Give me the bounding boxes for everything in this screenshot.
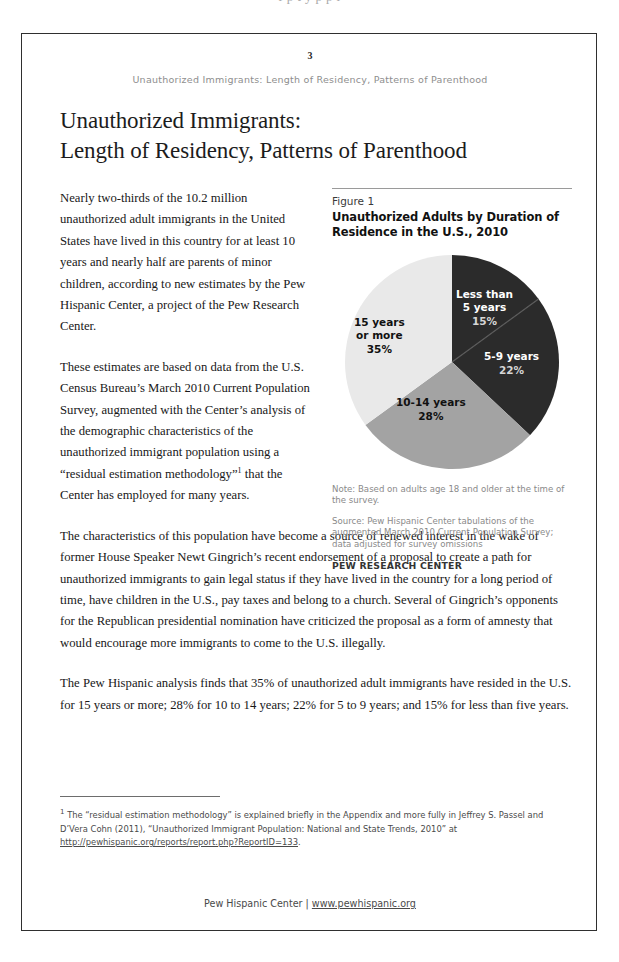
- figure-source: Source: Pew Hispanic Center tabulations …: [332, 516, 570, 550]
- page-footer: Pew Hispanic Center | www.pewhispanic.or…: [22, 898, 598, 909]
- pie-value-lt5: 15%: [456, 315, 513, 328]
- figure-title-line-1: Unauthorized Adults by Duration of: [332, 210, 559, 224]
- body-copy-upper: Nearly two-thirds of the 10.2 million un…: [60, 188, 315, 507]
- figure-number: Figure 1: [332, 195, 572, 207]
- pie-label-10-14-years: 10-14 years 28%: [396, 396, 466, 423]
- footer-separator: |: [303, 898, 312, 909]
- footnote-1: 1 The “residual estimation methodology” …: [60, 809, 572, 850]
- pie-value-15: 35%: [354, 343, 405, 356]
- paragraph-2-part-1: These estimates are based on data from t…: [60, 360, 310, 481]
- footnote-text-after-url: .: [298, 837, 301, 847]
- footnote-text-before-url: The “residual estimation methodology” is…: [60, 810, 543, 834]
- page-title-line-2: Length of Residency, Patterns of Parenth…: [60, 136, 582, 166]
- page-number: 3: [38, 34, 582, 61]
- figure-title: Unauthorized Adults by Duration of Resid…: [332, 210, 572, 240]
- pie-label-15-line-1: 15 years: [354, 316, 405, 328]
- figure-1-box: Figure 1 Unauthorized Adults by Duration…: [332, 188, 572, 571]
- pie-label-15-years-or-more: 15 years or more 35%: [354, 316, 405, 356]
- figure-title-line-2: Residence in the U.S., 2010: [332, 225, 508, 239]
- pie-label-less-than-5-years: Less than 5 years 15%: [456, 288, 513, 328]
- figure-note: Note: Based on adults age 18 and older a…: [332, 484, 570, 507]
- two-column-region: Nearly two-thirds of the 10.2 million un…: [60, 188, 572, 526]
- pie-label-1014-line-1: 10-14 years: [396, 396, 466, 408]
- pie-chart: Less than 5 years 15% 5-9 years 22% 10-1…: [344, 254, 560, 470]
- paragraph-4: The Pew Hispanic analysis finds that 35%…: [60, 673, 572, 716]
- figure-organization: PEW RESEARCH CENTER: [332, 560, 572, 571]
- paragraph-2: These estimates are based on data from t…: [60, 357, 315, 507]
- pie-label-59-line-1: 5-9 years: [484, 350, 539, 362]
- pie-value-59: 22%: [484, 364, 539, 377]
- footnote-url-link[interactable]: http://pewhispanic.org/reports/report.ph…: [60, 837, 298, 847]
- pie-label-lt5-line-1: Less than: [456, 288, 513, 300]
- left-text-column: Nearly two-thirds of the 10.2 million un…: [60, 188, 315, 526]
- page-frame: 3 Unauthorized Immigrants: Length of Res…: [21, 33, 597, 931]
- pie-label-5-9-years: 5-9 years 22%: [484, 350, 539, 377]
- footer-organization: Pew Hispanic Center: [204, 898, 302, 909]
- page-title-line-1: Unauthorized Immigrants:: [60, 108, 301, 133]
- footnote-area: 1 The “residual estimation methodology” …: [60, 796, 572, 850]
- pie-label-15-line-2: or more: [356, 329, 403, 341]
- pie-label-lt5-line-2: 5 years: [463, 301, 506, 313]
- figure-top-rule: [332, 188, 572, 189]
- footnote-separator-rule: [60, 796, 220, 797]
- scan-ghost-descenders: f p t y p p l: [0, 0, 619, 14]
- footer-url-link[interactable]: www.pewhispanic.org: [312, 898, 416, 909]
- pie-value-1014: 28%: [396, 410, 466, 423]
- running-header: Unauthorized Immigrants: Length of Resid…: [38, 74, 582, 85]
- paragraph-1: Nearly two-thirds of the 10.2 million un…: [60, 188, 315, 338]
- page-title: Unauthorized Immigrants: Length of Resid…: [60, 106, 582, 166]
